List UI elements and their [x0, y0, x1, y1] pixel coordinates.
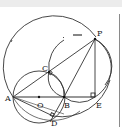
- arc-p-e-1: [95, 39, 111, 97]
- label-o: O: [37, 101, 44, 110]
- arc-d-e: [53, 80, 110, 117]
- label-e: E: [96, 101, 102, 110]
- geometry-diagram: A O B E C P D: [0, 0, 122, 127]
- point-c-dot: [48, 71, 50, 73]
- segment-pb: [64, 39, 95, 97]
- label-d: D: [51, 119, 57, 127]
- label-b: B: [64, 101, 70, 110]
- tick-mark-left: [11, 40, 12, 42]
- segment-ap: [13, 39, 95, 97]
- point-b-dot: [63, 96, 65, 98]
- label-p: P: [97, 29, 103, 38]
- right-angle-mark-d: [50, 113, 54, 117]
- arc-c-p: [49, 40, 64, 72]
- tick-mark: [63, 37, 64, 38]
- right-angle-mark-e: [91, 93, 95, 97]
- label-c: C: [42, 64, 48, 73]
- label-a: A: [4, 94, 11, 103]
- point-p-dot: [94, 38, 96, 40]
- point-o-dot: [38, 96, 40, 98]
